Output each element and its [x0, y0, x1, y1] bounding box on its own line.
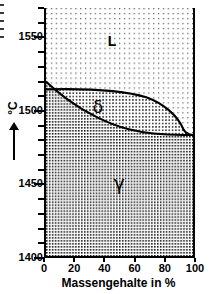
x-axis-tick-label: 20	[59, 263, 89, 274]
phase-diagram-figure: °C 1550150014501400	[0, 0, 213, 294]
y-axis-tick-label: 1500	[3, 105, 43, 116]
phase-label-delta: δ	[90, 100, 106, 114]
x-axis-tick-label: 80	[150, 263, 180, 274]
clipped-edge-mark	[0, 20, 4, 22]
y-axis-tick-label: 1450	[3, 178, 43, 189]
clipped-edge-mark	[0, 12, 4, 14]
y-axis-tick-label: 1550	[3, 31, 43, 42]
clipped-edge-mark	[0, 28, 4, 30]
plot-area: L δ γ	[44, 8, 195, 258]
x-axis-tick-label: 100	[180, 263, 210, 274]
up-arrow-shaft-icon	[13, 128, 15, 160]
y-axis-tick-label: 1400	[3, 252, 43, 263]
x-axis-title: Massengehalte in %	[0, 277, 213, 290]
x-axis-tick-label: 0	[29, 263, 59, 274]
phase-label-gamma: γ	[111, 176, 127, 190]
phase-label-liquid: L	[104, 34, 120, 48]
x-axis-tick-label: 60	[120, 263, 150, 274]
x-axis-tick-label: 40	[89, 263, 119, 274]
clipped-edge-mark	[0, 4, 4, 6]
